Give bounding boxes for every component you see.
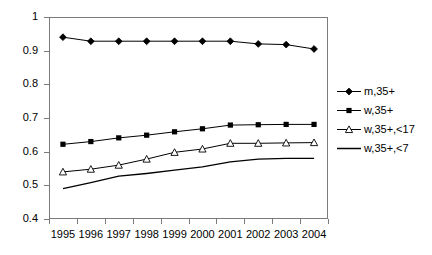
x-tick-mark (77, 219, 78, 224)
x-tick-mark (133, 219, 134, 224)
legend-label: w,35+,<7 (364, 142, 409, 154)
y-tick-mark (44, 118, 49, 119)
chart-legend: m,35+w,35+w,35+,<17w,35+,<7 (336, 82, 432, 158)
y-tick-label: 0.8 (4, 78, 38, 89)
x-tick-mark (244, 219, 245, 224)
legend-item-2[interactable]: w,35+,<17 (336, 120, 432, 139)
legend-swatch-icon (336, 82, 362, 101)
y-tick-label: 1 (4, 11, 38, 22)
y-tick-label: 0.4 (4, 213, 38, 224)
legend-swatch-icon (336, 139, 362, 158)
y-tick-label: 0.7 (4, 112, 38, 123)
x-tick-mark (272, 219, 273, 224)
line-chart: 0.40.50.60.70.80.91 19951996199719981999… (0, 0, 432, 255)
x-tick-mark (216, 219, 217, 224)
plot-area (49, 17, 328, 219)
x-tick-mark (328, 219, 329, 224)
legend-label: m,35+ (364, 85, 395, 97)
x-tick-mark (161, 219, 162, 224)
x-tick-mark (49, 219, 50, 224)
x-tick-mark (300, 219, 301, 224)
x-tick-mark (189, 219, 190, 224)
legend-swatch-icon (336, 101, 362, 120)
legend-item-3[interactable]: w,35+,<7 (336, 139, 432, 158)
legend-label: w,35+ (364, 104, 393, 116)
legend-item-0[interactable]: m,35+ (336, 82, 432, 101)
legend-label: w,35+,<17 (364, 123, 415, 135)
y-tick-mark (44, 51, 49, 52)
y-tick-mark (44, 17, 49, 18)
x-tick-mark (105, 219, 106, 224)
y-tick-mark (44, 84, 49, 85)
legend-item-1[interactable]: w,35+ (336, 101, 432, 120)
legend-swatch-icon (336, 120, 362, 139)
y-tick-label: 0.6 (4, 146, 38, 157)
y-tick-mark (44, 185, 49, 186)
y-tick-mark (44, 152, 49, 153)
y-tick-label: 0.5 (4, 179, 38, 190)
y-tick-label: 0.9 (4, 45, 38, 56)
x-tick-label: 2004 (298, 228, 330, 240)
